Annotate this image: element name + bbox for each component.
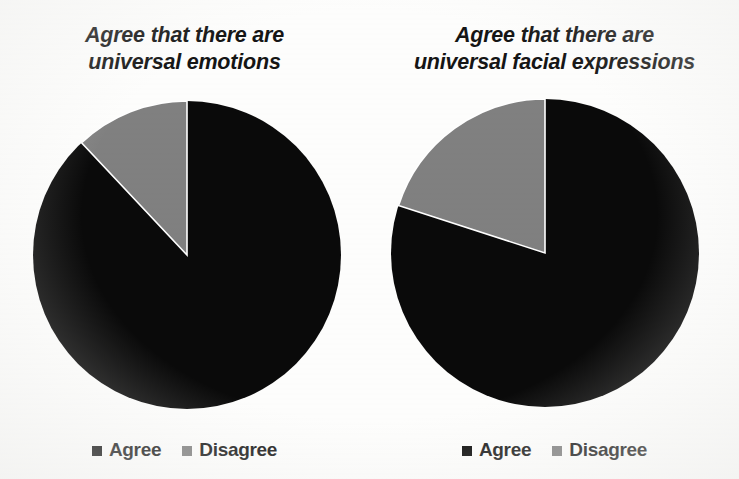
chart-title-universal-facial-expressions: Agree that there are universal facial ex…	[370, 22, 739, 76]
legend-universal-facial-expressions: Agree Disagree	[370, 439, 739, 461]
legend-entry-agree[interactable]: Agree	[92, 439, 161, 461]
legend-universal-emotions: Agree Disagree	[0, 439, 369, 461]
chart-title-universal-emotions: Agree that there are universal emotions	[0, 22, 369, 76]
legend-label-disagree: Disagree	[569, 439, 647, 461]
chart-title-line-2: universal facial expressions	[370, 49, 739, 76]
legend-swatch-agree-icon	[92, 446, 102, 456]
pie-chart-universal-emotions	[33, 101, 341, 409]
legend-swatch-disagree-icon	[552, 446, 562, 456]
chart-panel-universal-facial-expressions: Agree that there are universal facial ex…	[370, 0, 739, 479]
legend-entry-agree[interactable]: Agree	[462, 439, 531, 461]
pie-chart-universal-facial-expressions	[391, 99, 699, 407]
pie-chart-figure: Agree that there are universal emotions …	[0, 0, 739, 479]
pie-svg-universal-emotions	[33, 101, 341, 409]
legend-label-agree: Agree	[479, 439, 531, 461]
chart-title-line-1: Agree that there are	[370, 22, 739, 49]
legend-swatch-disagree-icon	[182, 446, 192, 456]
chart-panel-universal-emotions: Agree that there are universal emotions …	[0, 0, 369, 479]
legend-entry-disagree[interactable]: Disagree	[182, 439, 277, 461]
legend-label-agree: Agree	[109, 439, 161, 461]
legend-label-disagree: Disagree	[199, 439, 277, 461]
legend-swatch-agree-icon	[462, 446, 472, 456]
chart-title-line-1: Agree that there are	[0, 22, 369, 49]
pie-svg-universal-facial-expressions	[391, 99, 699, 407]
chart-title-line-2: universal emotions	[0, 49, 369, 76]
legend-entry-disagree[interactable]: Disagree	[552, 439, 647, 461]
